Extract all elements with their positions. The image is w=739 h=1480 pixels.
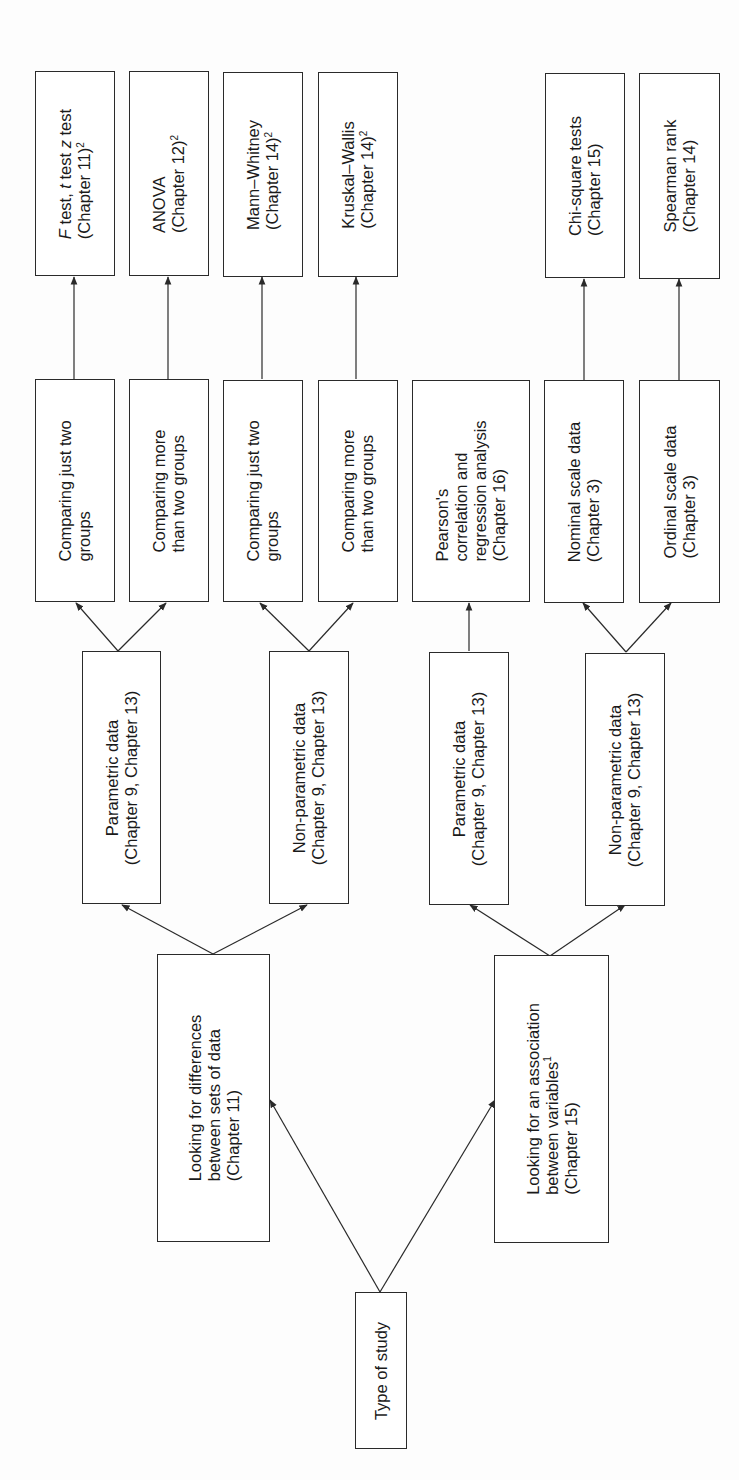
node-text-line: (Chapter 9, Chapter 13): [309, 690, 328, 864]
node-f-t-z-test-line1: F test, t test z test: [56, 108, 75, 238]
node-diff-nonparam-two-groups: Comparing just two groups: [223, 380, 303, 602]
node-kruskal-wallis: Kruskal–Wallis (Chapter 14)2: [318, 72, 398, 277]
node-text-line: Comparing more: [339, 430, 358, 553]
node-mann-whitney: Mann–Whitney (Chapter 14)2: [223, 72, 303, 277]
node-chi-square-line2: (Chapter 15): [585, 115, 604, 235]
node-f-t-z-test-line2: (Chapter 11)2: [75, 108, 94, 238]
node-text-line: between variables1: [542, 1003, 561, 1195]
node-text-line: Comparing just two: [56, 420, 75, 561]
node-text-line: Ordinal scale data: [661, 425, 680, 558]
node-text-line: Looking for an association: [523, 1003, 542, 1195]
node-chi-square: Chi-square tests (Chapter 15): [545, 73, 625, 278]
node-text-line: Parametric data: [103, 690, 122, 864]
node-anova-line2: (Chapter 12)2: [169, 134, 188, 232]
node-text-line: (Chapter 3): [680, 425, 699, 558]
node-text-line: Non-parametric data: [606, 692, 625, 866]
node-mann-whitney-line2: (Chapter 14)2: [263, 119, 282, 229]
node-text-line: groups: [75, 420, 94, 561]
node-text-line: (Chapter 9, Chapter 13): [469, 691, 488, 865]
node-text-line: Parametric data: [450, 691, 469, 865]
node-ordinal-scale: Ordinal scale data (Chapter 3): [639, 380, 720, 603]
statistics-decision-flowchart: F test, t test z test (Chapter 11)2 ANOV…: [0, 0, 739, 1480]
node-anova: ANOVA (Chapter 12)2: [129, 71, 209, 276]
node-text-line: (Chapter 11): [223, 1015, 242, 1182]
node-assoc-parametric: Parametric data (Chapter 9, Chapter 13): [429, 652, 509, 905]
node-text-line: Pearson's: [433, 420, 452, 561]
node-spearman-line2: (Chapter 14): [680, 120, 699, 233]
node-text-line: than two groups: [169, 429, 188, 552]
node-text-line: between sets of data: [204, 1015, 223, 1182]
node-text-line: regression analysis: [471, 420, 490, 561]
root-label: Type of study: [372, 1321, 391, 1419]
node-nominal-scale: Nominal scale data (Chapter 3): [544, 380, 624, 603]
node-mann-whitney-line1: Mann–Whitney: [244, 119, 263, 229]
node-text-line: Looking for differences: [185, 1015, 204, 1182]
node-anova-line1: ANOVA: [150, 134, 169, 232]
node-text-line: Nominal scale data: [565, 421, 584, 561]
node-text-line: (Chapter 16): [490, 420, 509, 561]
node-text-line: than two groups: [358, 430, 377, 553]
node-text-line: Comparing just two: [244, 420, 263, 561]
node-diff-nonparametric: Non-parametric data (Chapter 9, Chapter …: [269, 651, 349, 904]
node-spearman-line1: Spearman rank: [661, 120, 680, 233]
node-looking-for-association: Looking for an association between varia…: [494, 955, 609, 1243]
node-assoc-nonparametric: Non-parametric data (Chapter 9, Chapter …: [585, 653, 665, 906]
node-text-line: Non-parametric data: [290, 690, 309, 864]
node-diff-param-more-groups: Comparing more than two groups: [129, 379, 209, 602]
node-kruskal-wallis-line2: (Chapter 14)2: [358, 121, 377, 229]
node-text-line: (Chapter 15): [561, 1003, 580, 1195]
node-spearman: Spearman rank (Chapter 14): [639, 73, 720, 279]
node-pearson: Pearson's correlation and regression ana…: [412, 380, 530, 602]
node-text-line: (Chapter 9, Chapter 13): [122, 690, 141, 864]
node-diff-param-two-groups: Comparing just two groups: [35, 379, 115, 602]
node-f-t-z-test: F test, t test z test (Chapter 11)2: [35, 71, 115, 276]
node-text-line: correlation and: [452, 420, 471, 561]
node-diff-nonparam-more-groups: Comparing more than two groups: [318, 380, 398, 602]
node-chi-square-line1: Chi-square tests: [566, 115, 585, 235]
node-diff-parametric: Parametric data (Chapter 9, Chapter 13): [82, 651, 161, 904]
node-text-line: (Chapter 9, Chapter 13): [625, 692, 644, 866]
node-looking-for-differences: Looking for differences between sets of …: [157, 954, 270, 1242]
node-text-line: (Chapter 3): [584, 421, 603, 561]
node-type-of-study: Type of study: [355, 1292, 407, 1449]
node-kruskal-wallis-line1: Kruskal–Wallis: [339, 121, 358, 229]
node-text-line: groups: [263, 420, 282, 561]
node-text-line: Comparing more: [150, 429, 169, 552]
